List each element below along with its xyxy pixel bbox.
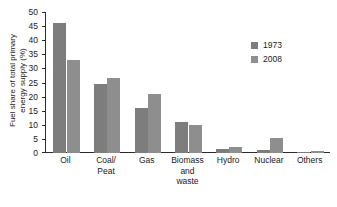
legend-swatch-icon xyxy=(251,42,258,49)
legend-swatch-icon xyxy=(251,56,258,63)
y-axis-tick-mark xyxy=(42,97,45,98)
plot-area xyxy=(45,12,330,153)
bar xyxy=(53,23,66,153)
legend-label: 1973 xyxy=(263,41,282,50)
x-axis-category-label: Coal/Peat xyxy=(86,155,127,176)
y-axis-tick-mark xyxy=(42,12,45,13)
y-axis-tick-mark xyxy=(42,125,45,126)
x-axis-category-label: Nuclear xyxy=(249,155,290,166)
bar xyxy=(189,125,202,153)
x-axis-category-label: Others xyxy=(289,155,330,166)
y-axis-tick-label: 35 xyxy=(12,50,38,59)
bar xyxy=(270,138,283,153)
x-axis-category-label: Oil xyxy=(45,155,86,166)
y-axis-tick-labels: 05101520253035404550 xyxy=(12,12,38,153)
x-axis-category-label: Gas xyxy=(126,155,167,166)
bar xyxy=(135,108,148,153)
y-axis-tick-mark xyxy=(42,83,45,84)
legend: 19732008 xyxy=(251,38,321,66)
bars-layer xyxy=(46,12,330,153)
y-axis-tick-label: 30 xyxy=(12,64,38,73)
x-axis-category-label: Biomassandwaste xyxy=(167,155,208,187)
bar xyxy=(216,149,229,153)
y-axis-tick-label: 5 xyxy=(12,135,38,144)
y-axis-tick-label: 10 xyxy=(12,121,38,130)
legend-item: 2008 xyxy=(251,52,321,66)
bar xyxy=(311,151,324,153)
y-axis-tick-label: 0 xyxy=(12,149,38,158)
x-axis-category-label: Hydro xyxy=(208,155,249,166)
y-axis-tick-label: 25 xyxy=(12,78,38,87)
bar xyxy=(257,150,270,153)
bar xyxy=(297,152,310,153)
y-axis-tick-mark xyxy=(42,40,45,41)
y-axis-tick-mark xyxy=(42,139,45,140)
y-axis-tick-label: 40 xyxy=(12,36,38,45)
bar xyxy=(94,84,107,153)
y-axis-tick-label: 50 xyxy=(12,8,38,17)
y-axis-tick-mark xyxy=(42,54,45,55)
bar xyxy=(229,147,242,153)
y-axis-tick-label: 45 xyxy=(12,22,38,31)
y-axis-tick-label: 20 xyxy=(12,92,38,101)
bar xyxy=(67,60,80,153)
y-axis-tick-mark xyxy=(42,68,45,69)
legend-label: 2008 xyxy=(263,55,282,64)
bar xyxy=(175,122,188,153)
legend-item: 1973 xyxy=(251,38,321,52)
bar-chart: Fuel share of total primary energy suppl… xyxy=(0,0,337,207)
y-axis-tick-label: 15 xyxy=(12,106,38,115)
bar xyxy=(148,94,161,153)
y-axis-tick-mark xyxy=(42,26,45,27)
x-axis-category-labels: OilCoal/PeatGasBiomassandwasteHydroNucle… xyxy=(45,155,330,207)
bar xyxy=(107,78,120,153)
y-axis-tick-mark xyxy=(42,152,45,153)
y-axis-tick-mark xyxy=(42,111,45,112)
